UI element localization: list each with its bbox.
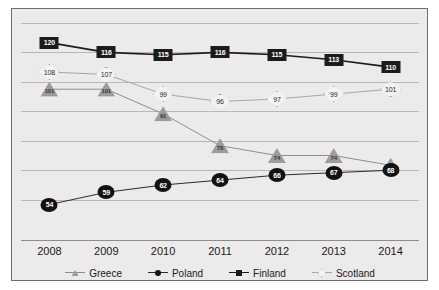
data-point-greece-2013: 74 bbox=[325, 148, 343, 163]
x-tick-2009: 2009 bbox=[94, 245, 118, 257]
data-label: 107 bbox=[101, 71, 112, 78]
data-point-greece-2010: 91 bbox=[154, 106, 172, 121]
data-label: 101 bbox=[97, 88, 115, 94]
legend-symbol-greece bbox=[65, 268, 85, 278]
data-point-finland-2012: 115 bbox=[267, 49, 286, 61]
data-point-poland-2014: 68 bbox=[382, 163, 399, 177]
data-label: 97 bbox=[273, 96, 280, 103]
legend-symbol-finland bbox=[229, 268, 249, 278]
data-label: 59 bbox=[103, 189, 110, 196]
data-label: 101 bbox=[385, 86, 396, 93]
triangle-icon bbox=[72, 270, 79, 276]
legend-label: Finland bbox=[253, 268, 286, 279]
chart-container: 1081079996979910110110191787474701201161… bbox=[11, 8, 428, 281]
data-point-finland-2009: 116 bbox=[97, 46, 116, 58]
x-tick-2014: 2014 bbox=[378, 245, 402, 257]
data-label: 91 bbox=[154, 112, 172, 118]
data-label: 54 bbox=[46, 201, 53, 208]
data-label: 66 bbox=[273, 172, 280, 179]
data-label: 120 bbox=[44, 39, 55, 46]
data-label: 64 bbox=[216, 177, 223, 184]
legend-item-poland[interactable]: Poland bbox=[148, 265, 203, 281]
data-label: 68 bbox=[387, 167, 394, 174]
data-point-poland-2010: 62 bbox=[155, 178, 172, 192]
data-point-greece-2008: 101 bbox=[40, 82, 58, 97]
plot-area: 1081079996979910110110191787474701201161… bbox=[21, 18, 419, 239]
square-icon bbox=[236, 270, 242, 276]
data-label: 99 bbox=[159, 91, 166, 98]
x-tick-2010: 2010 bbox=[151, 245, 175, 257]
data-label: 101 bbox=[40, 88, 58, 94]
x-tick-2012: 2012 bbox=[265, 245, 289, 257]
data-point-greece-2009: 101 bbox=[97, 82, 115, 97]
data-label: 115 bbox=[272, 51, 283, 58]
data-label: 99 bbox=[330, 91, 337, 98]
legend-item-scotland[interactable]: Scotland bbox=[312, 265, 375, 281]
diamond-icon bbox=[317, 269, 326, 278]
legend-label: Greece bbox=[89, 268, 122, 279]
x-axis-line bbox=[21, 240, 419, 241]
data-label: 115 bbox=[158, 51, 169, 58]
data-label: 110 bbox=[385, 64, 396, 71]
legend-symbol-scotland bbox=[312, 268, 332, 278]
data-label: 113 bbox=[328, 56, 339, 63]
data-point-finland-2013: 113 bbox=[324, 54, 343, 66]
data-label: 108 bbox=[44, 69, 55, 76]
x-tick-2011: 2011 bbox=[208, 245, 232, 257]
data-point-finland-2008: 120 bbox=[40, 37, 59, 49]
data-label: 62 bbox=[159, 182, 166, 189]
circle-icon bbox=[155, 270, 161, 276]
data-point-greece-2011: 78 bbox=[211, 138, 229, 153]
data-point-poland-2011: 64 bbox=[212, 173, 229, 187]
data-point-poland-2012: 66 bbox=[268, 168, 285, 182]
data-label: 74 bbox=[268, 154, 286, 160]
chart-legend: GreecePolandFinlandScotland bbox=[21, 265, 419, 281]
legend-label: Scotland bbox=[336, 268, 375, 279]
data-label: 96 bbox=[216, 98, 223, 105]
legend-symbol-poland bbox=[148, 268, 168, 278]
data-label: 116 bbox=[215, 49, 226, 56]
data-point-finland-2014: 110 bbox=[381, 61, 400, 73]
data-label: 116 bbox=[101, 49, 112, 56]
data-label: 67 bbox=[330, 169, 337, 176]
data-point-finland-2011: 116 bbox=[211, 46, 230, 58]
data-point-poland-2009: 59 bbox=[98, 185, 115, 199]
legend-item-greece[interactable]: Greece bbox=[65, 265, 122, 281]
legend-label: Poland bbox=[172, 268, 203, 279]
x-tick-2013: 2013 bbox=[321, 245, 345, 257]
x-tick-2008: 2008 bbox=[37, 245, 61, 257]
data-point-poland-2008: 54 bbox=[41, 198, 58, 212]
data-point-greece-2012: 74 bbox=[268, 148, 286, 163]
data-label: 78 bbox=[211, 144, 229, 150]
legend-item-finland[interactable]: Finland bbox=[229, 265, 286, 281]
x-axis-labels: 2008200920102011201220132014 bbox=[21, 245, 419, 261]
data-point-poland-2013: 67 bbox=[325, 166, 342, 180]
data-label: 74 bbox=[325, 154, 343, 160]
data-point-finland-2010: 115 bbox=[154, 49, 173, 61]
